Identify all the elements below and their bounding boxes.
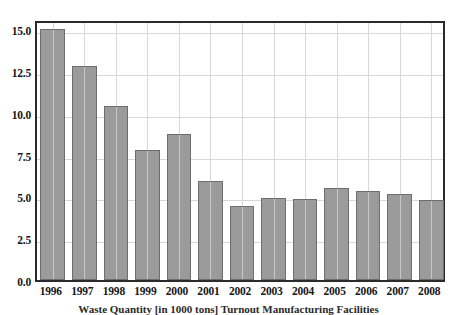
plot-frame bbox=[35, 21, 445, 282]
bar bbox=[387, 194, 412, 280]
y-axis: 0.02.55.07.510.012.515.0 bbox=[0, 0, 35, 313]
y-tick-label: 0.0 bbox=[17, 276, 31, 288]
x-axis: 1996199719981999200020012002200320042005… bbox=[35, 285, 445, 301]
bar-gridline-overlay bbox=[179, 135, 180, 279]
bar-gridline-overlay bbox=[305, 200, 306, 279]
x-tick-label: 2004 bbox=[292, 285, 314, 297]
bar-gridline-overlay bbox=[53, 30, 54, 279]
x-tick-label: 2005 bbox=[324, 285, 346, 297]
bar bbox=[261, 198, 286, 280]
y-tick-label: 10.0 bbox=[12, 109, 31, 121]
bar bbox=[104, 106, 129, 280]
x-tick-label: 2003 bbox=[260, 285, 282, 297]
bar bbox=[293, 199, 318, 280]
y-tick-label: 15.0 bbox=[12, 25, 31, 37]
y-tick-label: 5.0 bbox=[17, 192, 31, 204]
x-tick-label: 1998 bbox=[103, 285, 125, 297]
y-tick-label: 7.5 bbox=[17, 151, 31, 163]
x-tick-label: 2007 bbox=[387, 285, 409, 297]
bar-gridline-overlay bbox=[84, 67, 85, 279]
chart-caption: Waste Quantity [in 1000 tons] Turnout Ma… bbox=[0, 303, 457, 315]
x-tick-label: 1999 bbox=[134, 285, 156, 297]
bar bbox=[167, 134, 192, 280]
bar-gridline-overlay bbox=[431, 201, 432, 279]
bar bbox=[40, 29, 65, 280]
bar-gridline-overlay bbox=[116, 107, 117, 279]
bar bbox=[198, 181, 223, 280]
bar bbox=[419, 200, 444, 280]
bar-gridline-overlay bbox=[337, 189, 338, 279]
x-tick-label: 1996 bbox=[40, 285, 62, 297]
x-tick-label: 2006 bbox=[355, 285, 377, 297]
y-tick-label: 2.5 bbox=[17, 234, 31, 246]
bar-gridline-overlay bbox=[400, 195, 401, 279]
x-tick-label: 2000 bbox=[166, 285, 188, 297]
x-tick-label: 2008 bbox=[418, 285, 440, 297]
bar-gridline-overlay bbox=[274, 199, 275, 279]
bar-gridline-overlay bbox=[242, 207, 243, 279]
bar bbox=[324, 188, 349, 280]
bar bbox=[135, 150, 160, 281]
plot-inner bbox=[37, 23, 443, 280]
bar bbox=[72, 66, 97, 280]
bar bbox=[356, 191, 381, 280]
bar-gridline-overlay bbox=[210, 182, 211, 279]
x-tick-label: 2001 bbox=[197, 285, 219, 297]
x-tick-label: 2002 bbox=[229, 285, 251, 297]
bar bbox=[230, 206, 255, 280]
bars-layer bbox=[37, 23, 443, 280]
x-tick-label: 1997 bbox=[71, 285, 93, 297]
bar-gridline-overlay bbox=[147, 151, 148, 280]
y-tick-label: 12.5 bbox=[12, 67, 31, 79]
bar-gridline-overlay bbox=[368, 192, 369, 279]
